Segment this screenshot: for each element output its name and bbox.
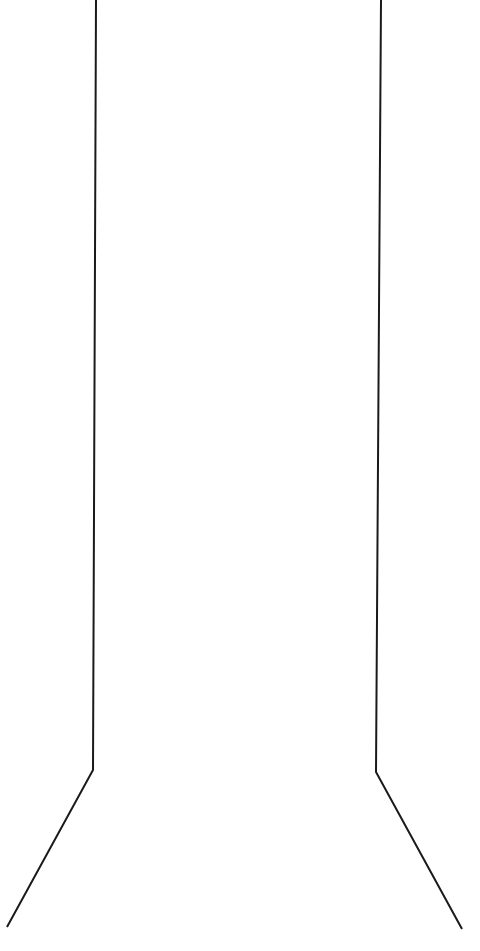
left-outline-line bbox=[7, 0, 96, 927]
right-outline-line bbox=[376, 0, 462, 929]
flask-outline-drawing bbox=[0, 0, 480, 951]
diagram-canvas bbox=[0, 0, 480, 951]
